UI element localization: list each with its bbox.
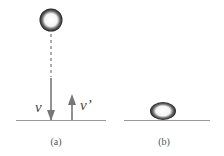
- panel-b: [124, 102, 210, 121]
- velocity-down-label: v: [35, 99, 42, 116]
- panel-b-caption: (b): [158, 136, 170, 147]
- panel-a: [16, 9, 106, 122]
- arrowhead-up-icon: [68, 94, 76, 105]
- diagram-canvas: [0, 0, 224, 156]
- deformed-ball: [150, 102, 176, 120]
- panel-a-caption: (a): [50, 136, 61, 147]
- arrowhead-down-icon: [47, 110, 55, 121]
- velocity-up-label: v’: [80, 97, 92, 114]
- falling-ball: [40, 9, 63, 32]
